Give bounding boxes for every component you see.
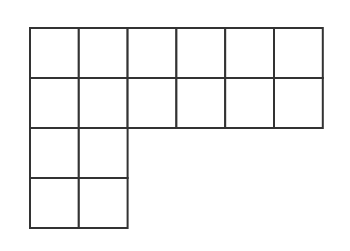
grid-cell-top-r1-c3	[176, 78, 225, 128]
grid-cell-top-r0-c4	[225, 28, 274, 78]
grid-cell-bottom-r1-c0	[30, 178, 79, 228]
grid-cell-top-r1-c0	[30, 78, 79, 128]
grid-cell-bottom-r0-c1	[79, 128, 128, 178]
grid-cell-bottom-r1-c1	[79, 178, 128, 228]
grid-cell-top-r0-c2	[128, 28, 177, 78]
grid-cell-top-r1-c1	[79, 78, 128, 128]
grid-cell-top-r1-c4	[225, 78, 274, 128]
grid-cell-top-r0-c3	[176, 28, 225, 78]
grid-cell-top-r0-c0	[30, 28, 79, 78]
grid-cell-top-r1-c2	[128, 78, 177, 128]
grid-cell-top-r0-c5	[274, 28, 323, 78]
grid-cell-bottom-r0-c0	[30, 128, 79, 178]
grid-cell-top-r0-c1	[79, 28, 128, 78]
grid-cell-top-r1-c5	[274, 78, 323, 128]
l-shaped-grid-diagram	[0, 0, 350, 251]
